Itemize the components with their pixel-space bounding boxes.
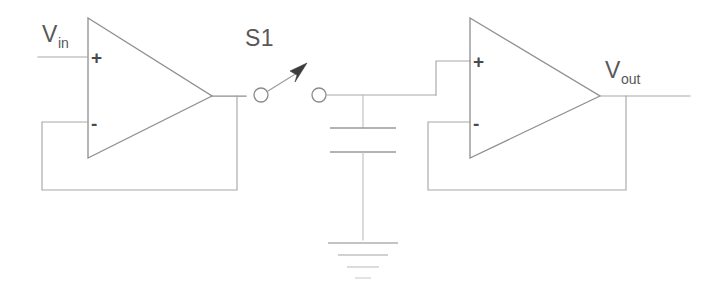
output-opamp-plus-pin: + xyxy=(473,51,484,72)
input-opamp-plus-pin: + xyxy=(91,47,102,68)
input-opamp-minus-pin: - xyxy=(91,113,97,134)
output-opamp-input-jog-wire xyxy=(436,61,470,95)
switch-blade-arrowhead xyxy=(290,63,307,82)
vout-label-main: V xyxy=(605,57,621,83)
input-opamp-triangle xyxy=(88,18,212,158)
vout-label: V out xyxy=(605,57,641,87)
input-buffer-opamp: + - xyxy=(38,18,246,190)
vin-label-main: V xyxy=(42,21,58,47)
switch-right-terminal[interactable] xyxy=(312,88,326,102)
vin-label-subscript: in xyxy=(58,35,69,51)
switch-left-terminal[interactable] xyxy=(254,88,268,102)
output-buffer-opamp: + - xyxy=(428,18,690,190)
switch-label-s1: S1 xyxy=(245,25,274,51)
circuit-diagram-canvas: + - V in S1 xyxy=(0,0,719,301)
sample-switch-s1[interactable] xyxy=(254,63,326,102)
input-opamp-feedback-wire xyxy=(42,96,237,190)
output-opamp-triangle xyxy=(470,18,600,158)
switch-blade[interactable] xyxy=(268,73,297,91)
vin-label: V in xyxy=(42,21,69,51)
vout-label-subscript: out xyxy=(621,71,641,87)
hold-node-network xyxy=(326,95,436,278)
ground-symbol xyxy=(328,243,398,278)
output-opamp-minus-pin: - xyxy=(473,113,479,134)
output-opamp-feedback-wire xyxy=(428,96,626,190)
